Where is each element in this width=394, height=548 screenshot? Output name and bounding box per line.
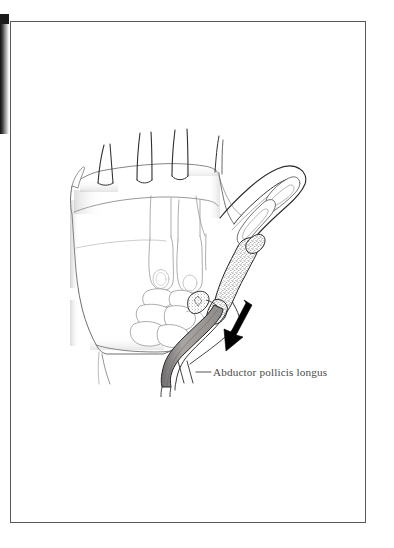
metacarpals-2-5 — [149, 196, 206, 293]
palm-soft-tissue — [70, 164, 234, 384]
finger-stubs — [98, 129, 223, 185]
label-abductor-pollicis-longus: Abductor pollicis longus — [213, 367, 327, 378]
label-leader — [178, 361, 211, 383]
anatomical-figure — [0, 0, 394, 548]
illustration-page: Abductor pollicis longus — [0, 0, 394, 548]
